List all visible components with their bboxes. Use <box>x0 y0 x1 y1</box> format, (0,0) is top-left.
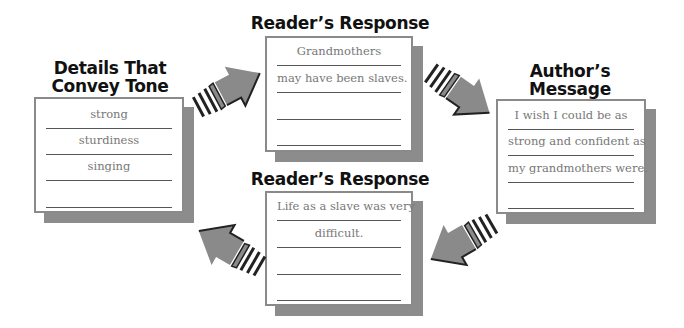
author-title-line2: Message <box>490 80 650 98</box>
author-title-line1: Author’s <box>490 62 650 80</box>
author-line-2: strong and confident as <box>508 129 634 156</box>
reader-bottom-line-4 <box>277 274 401 301</box>
details-line-2: sturdiness <box>46 128 172 155</box>
reader-top-line-1: Grandmothers <box>277 39 401 66</box>
arrow-up-right-icon <box>188 62 268 118</box>
author-title: Author’s Message <box>490 62 650 98</box>
arrow-down-left-icon <box>420 210 504 272</box>
reader-top-title: Reader’s Response <box>235 14 445 32</box>
reader-bottom-line-1: Life as a slave was very <box>277 194 401 221</box>
reader-top-panel: Grandmothers may have been slaves. <box>265 36 413 152</box>
reader-top-line-4 <box>277 119 401 146</box>
reader-bottom-panel-box: Life as a slave was very difficult. <box>265 191 413 306</box>
arrow-down-right-icon <box>420 62 500 122</box>
author-panel-box: I wish I could be as strong and confiden… <box>496 99 646 214</box>
details-panel: strong sturdiness singing <box>34 97 184 213</box>
details-title: Details That Convey Tone <box>20 59 200 95</box>
details-title-line2: Convey Tone <box>20 77 200 95</box>
author-line-1: I wish I could be as <box>508 103 634 130</box>
reader-bottom-panel: Life as a slave was very difficult. <box>265 191 413 306</box>
arrow-up-left-icon <box>188 218 272 280</box>
details-line-1: strong <box>46 102 172 129</box>
details-panel-box: strong sturdiness singing <box>34 97 184 213</box>
author-line-3: my grandmothers were. <box>508 156 634 183</box>
reader-top-line-2: may have been slaves. <box>277 66 401 93</box>
details-line-3: singing <box>46 154 172 181</box>
author-panel: I wish I could be as strong and confiden… <box>496 99 646 214</box>
reader-top-panel-box: Grandmothers may have been slaves. <box>265 36 413 152</box>
author-line-4 <box>508 182 634 209</box>
reader-bottom-line-3 <box>277 248 401 275</box>
reader-bottom-line-2: difficult. <box>277 221 401 248</box>
details-title-line1: Details That <box>20 59 200 77</box>
reader-top-line-3 <box>277 93 401 120</box>
reader-bottom-title: Reader’s Response <box>235 170 445 188</box>
details-line-4 <box>46 181 172 208</box>
